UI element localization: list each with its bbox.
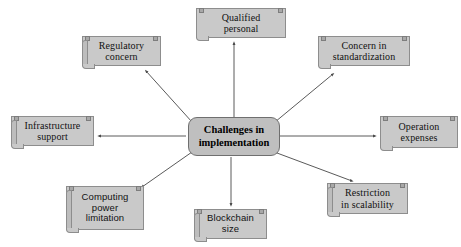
node-label: Concern instandardization (330, 40, 399, 62)
note-foot-icon (194, 237, 207, 242)
note-tab-right-icon (400, 183, 405, 188)
note-tab-right-icon (86, 116, 91, 121)
note-tab-left-icon (383, 116, 388, 121)
note-tab-left-icon (321, 36, 326, 41)
note-tab-left-icon (199, 8, 204, 13)
note-tab-right-icon (402, 36, 407, 41)
node-label-line1: Infrastructure (25, 120, 81, 131)
node-blockchain-size[interactable]: Blockchainsize (194, 209, 267, 239)
note-foot-icon (196, 36, 209, 41)
node-label-line1: Qualified (222, 12, 261, 23)
node-label: Qualifiedpersonal (219, 12, 264, 34)
node-operation-expenses[interactable]: Operationexpenses (380, 116, 458, 148)
node-label-line2: concern (105, 51, 137, 62)
node-restriction-in-scalability[interactable]: Restrictionin scalability (327, 183, 408, 214)
node-label: Regulatoryconcern (96, 40, 147, 62)
node-label-line2: standardization (333, 51, 396, 62)
node-label-line2: support (37, 131, 68, 142)
note-curl-icon (66, 190, 72, 232)
connector-to-restriction-in-scalability (277, 153, 352, 181)
node-qualified-personal[interactable]: Qualifiedpersonal (196, 8, 286, 38)
connector-to-regulatory-concern (146, 71, 192, 122)
node-regulatory-concern[interactable]: Regulatoryconcern (82, 36, 161, 66)
node-label-line1: Computing (82, 191, 129, 202)
node-label: Computingpowerlimitation (79, 192, 132, 224)
node-label: Infrastructuresupport (22, 120, 84, 142)
node-label-line1: Regulatory (99, 40, 144, 51)
note-foot-icon (380, 146, 393, 151)
diagram-canvas: Challenges inimplementation Qualifiedper… (0, 0, 461, 247)
center-node-label: Challenges inimplementation (199, 124, 270, 149)
node-computing-power-limitation[interactable]: Computingpowerlimitation (66, 186, 144, 230)
connector-to-computing-power-limitation (142, 152, 192, 187)
node-infrastructure-support[interactable]: Infrastructuresupport (11, 116, 94, 146)
note-tab-right-icon (153, 36, 158, 41)
node-label-line2: expenses (401, 132, 438, 143)
center-node-challenges-in-implementation[interactable]: Challenges inimplementation (188, 117, 280, 156)
node-label-line2: in scalability (341, 199, 394, 210)
node-label-line1: Blockchain (207, 212, 254, 223)
node-label-line2: power (92, 202, 118, 213)
connector-to-concern-in-standardization (275, 74, 333, 122)
center-node-label-line1: Challenges in (204, 124, 264, 135)
node-label: Restrictionin scalability (338, 187, 397, 209)
node-label-line1: Operation (399, 121, 440, 132)
node-label-line2: personal (224, 23, 259, 34)
note-tab-right-icon (136, 186, 141, 191)
note-foot-icon (318, 64, 331, 69)
node-concern-in-standardization[interactable]: Concern instandardization (318, 36, 410, 66)
note-tab-right-icon (450, 116, 455, 121)
note-foot-icon (66, 228, 79, 233)
node-label-line1: Restriction (345, 187, 390, 198)
note-tab-right-icon (259, 209, 264, 214)
center-node-label-line2: implementation (199, 137, 270, 148)
node-label-line2: size (222, 223, 239, 234)
note-foot-icon (82, 64, 95, 69)
node-label: Operationexpenses (396, 121, 443, 143)
node-label: Blockchainsize (204, 213, 257, 234)
note-foot-icon (327, 212, 340, 217)
node-label-line1: Concern in (341, 40, 386, 51)
node-label-line3: limitation (86, 212, 125, 223)
note-foot-icon (11, 144, 24, 149)
note-tab-right-icon (278, 8, 283, 13)
